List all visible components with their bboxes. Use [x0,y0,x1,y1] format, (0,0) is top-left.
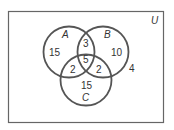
region-a-and-b: 3 [83,38,89,49]
venn-diagram: U A B C 15 10 15 3 5 2 2 4 [0,0,174,130]
region-a-only: 15 [49,47,61,58]
region-c-only: 15 [81,80,93,91]
set-b-label: B [104,29,111,40]
set-a-label: A [61,29,69,40]
region-a-and-c: 2 [70,64,76,75]
region-a-and-b-and-c: 5 [83,54,89,65]
region-b-only: 10 [111,47,123,58]
set-c-label: C [82,92,90,103]
universe-label: U [151,15,159,26]
region-outside: 4 [129,63,135,74]
region-b-and-c: 2 [96,64,102,75]
